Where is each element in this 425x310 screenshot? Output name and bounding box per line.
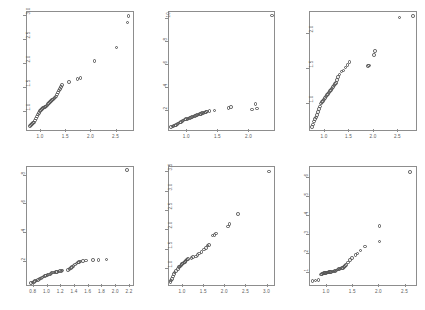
- x-axis-tick-label: 1.0: [183, 134, 190, 139]
- data-point: [67, 80, 71, 84]
- y-axis-tick-label: 2.5: [26, 35, 31, 42]
- x-axis-tick: [115, 284, 116, 287]
- y-axis-tick-label: 1.0: [309, 99, 314, 106]
- y-axis-tick-label: 4: [163, 85, 168, 88]
- data-point: [250, 108, 254, 112]
- plot-frame: [309, 166, 417, 286]
- data-point: [91, 258, 95, 262]
- data-point: [350, 256, 354, 260]
- x-axis-tick-label: 2.5: [242, 289, 249, 294]
- x-axis-tick: [182, 284, 183, 287]
- y-axis-tick-label: 3.0: [26, 11, 31, 18]
- data-point: [378, 224, 382, 228]
- y-axis-tick-label: 8: [21, 173, 26, 176]
- data-point: [311, 123, 315, 127]
- data-point: [60, 83, 64, 87]
- x-axis-tick-label: 1.0: [323, 289, 330, 294]
- x-axis-tick-label: 2.0: [221, 289, 228, 294]
- x-axis-tick-label: 1.0: [43, 289, 50, 294]
- y-axis-tick-label: 1.5: [167, 245, 172, 252]
- x-axis-tick: [101, 284, 102, 287]
- plot-frame: [168, 11, 276, 131]
- x-axis-tick-label: 2.2: [125, 289, 132, 294]
- x-axis-tick: [203, 284, 204, 287]
- y-axis-tick-label: 2.0: [309, 29, 314, 36]
- data-point: [79, 76, 83, 80]
- x-axis-tick: [405, 284, 406, 287]
- data-point: [229, 105, 233, 109]
- data-point: [236, 212, 240, 216]
- x-axis-tick-label: 1.2: [57, 289, 64, 294]
- y-axis-tick-label: 6: [305, 175, 310, 178]
- y-axis-tick-label: 2: [21, 259, 26, 262]
- x-axis-tick-label: 2.5: [401, 289, 408, 294]
- plot-frame: [168, 166, 276, 286]
- y-axis-tick-label: 5: [305, 194, 310, 197]
- data-point: [338, 73, 342, 77]
- data-point: [342, 69, 346, 73]
- data-point: [398, 16, 402, 20]
- x-axis-tick-label: 1.0: [179, 289, 186, 294]
- y-axis-tick-label: 3.0: [167, 187, 172, 194]
- y-axis-tick-label: 4: [21, 230, 26, 233]
- x-axis-tick: [74, 284, 75, 287]
- x-axis-tick: [326, 284, 327, 287]
- x-axis-tick-label: 2.0: [375, 289, 382, 294]
- x-axis-tick: [217, 129, 218, 132]
- data-point: [93, 59, 97, 63]
- plot-frame: [309, 11, 417, 131]
- y-axis-tick-label: 2.0: [26, 59, 31, 66]
- x-axis-tick: [65, 129, 66, 132]
- data-point: [373, 49, 377, 53]
- scatter-panel-4: 0.81.01.21.41.61.82.02.22468: [0, 155, 142, 310]
- x-axis-tick: [373, 129, 374, 132]
- y-axis-tick-label: 6: [163, 62, 168, 65]
- y-axis-tick-label: 2: [163, 108, 168, 111]
- x-axis-tick-label: 1.5: [62, 134, 69, 139]
- x-axis-tick-label: 0.8: [29, 289, 36, 294]
- scatter-panel-2: 1.01.52.0246810: [142, 0, 284, 155]
- x-axis-tick: [33, 284, 34, 287]
- data-point: [115, 46, 119, 50]
- x-axis-tick-label: 2.0: [369, 134, 376, 139]
- y-axis-tick-label: 8: [163, 39, 168, 42]
- x-axis-tick-label: 1.5: [200, 289, 207, 294]
- x-axis-tick: [324, 129, 325, 132]
- x-axis-tick-label: 2.0: [87, 134, 94, 139]
- x-axis-tick-label: 1.5: [349, 289, 356, 294]
- data-point: [363, 245, 367, 249]
- x-axis-tick: [88, 284, 89, 287]
- scatter-panel-3: 1.01.52.02.51.01.52.0: [283, 0, 425, 155]
- y-axis-tick-label: 3: [305, 232, 310, 235]
- data-point: [408, 170, 412, 174]
- data-point: [255, 107, 259, 111]
- data-point: [228, 222, 232, 226]
- x-axis-tick: [116, 129, 117, 132]
- x-axis-tick: [245, 284, 246, 287]
- x-axis-tick: [397, 129, 398, 132]
- scatter-panel-1: 1.01.52.02.51.01.52.02.53.0: [0, 0, 142, 155]
- x-axis-tick-label: 1.0: [321, 134, 328, 139]
- y-axis-tick-label: 2.0: [167, 225, 172, 232]
- x-axis-tick: [186, 129, 187, 132]
- data-point: [214, 232, 218, 236]
- x-axis-tick: [129, 284, 130, 287]
- x-axis-tick: [348, 129, 349, 132]
- x-axis-tick-label: 2.5: [112, 134, 119, 139]
- x-axis-tick-label: 2.5: [394, 134, 401, 139]
- y-axis-tick-label: 3.5: [167, 167, 172, 174]
- plot-frame: [26, 166, 134, 286]
- x-axis-tick-label: 1.8: [98, 289, 105, 294]
- data-point: [372, 53, 376, 57]
- y-axis-tick-label: 1.0: [167, 264, 172, 271]
- x-axis-tick-label: 2.0: [245, 134, 252, 139]
- x-axis-tick: [352, 284, 353, 287]
- data-point: [61, 269, 65, 273]
- y-axis-tick-label: 1.0: [26, 107, 31, 114]
- data-point: [411, 14, 415, 18]
- y-axis-tick-label: 2.5: [167, 206, 172, 213]
- scatter-plot-grid: 1.01.52.02.51.01.52.02.53.01.01.52.02468…: [0, 0, 425, 310]
- y-axis-tick-label: 1.5: [26, 83, 31, 90]
- x-axis-tick: [267, 284, 268, 287]
- data-point: [213, 109, 217, 113]
